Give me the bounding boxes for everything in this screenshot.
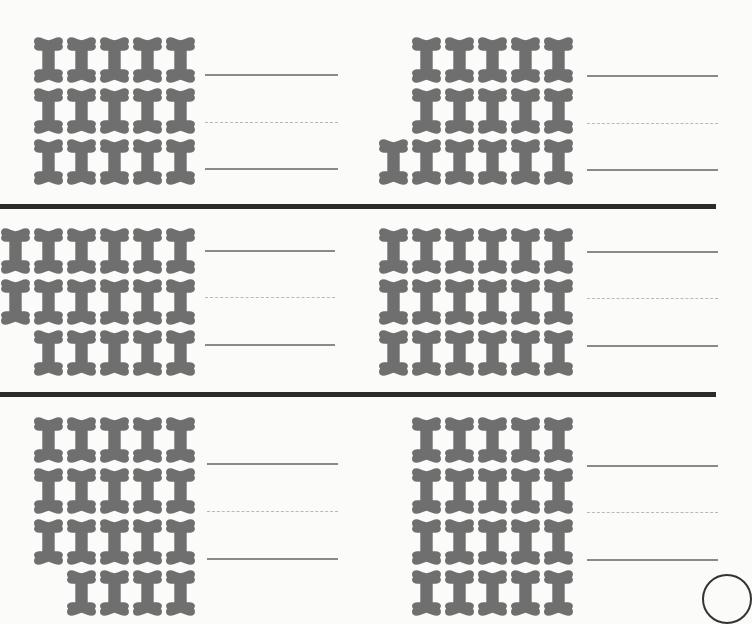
answer-writing-line[interactable] [587, 559, 718, 561]
dog-bone-icon [132, 226, 163, 276]
dog-bone-icon [477, 226, 508, 276]
dog-bone-icon [510, 35, 541, 85]
dog-bone-icon [444, 328, 475, 378]
dog-bone-icon [411, 35, 442, 85]
dog-bone-icon [510, 137, 541, 187]
dog-bone-icon [99, 277, 130, 327]
answer-midline[interactable] [205, 297, 335, 298]
dog-bone-icon [165, 86, 196, 136]
dog-bone-icon [33, 517, 64, 567]
dog-bone-icon [132, 568, 163, 618]
answer-writing-line[interactable] [587, 465, 718, 467]
dog-bone-icon [543, 328, 574, 378]
dog-bone-icon [444, 277, 475, 327]
dog-bone-icon [444, 86, 475, 136]
answer-writing-line[interactable] [587, 169, 718, 171]
dog-bone-icon [543, 137, 574, 187]
answer-writing-line[interactable] [587, 251, 718, 253]
dog-bone-icon [165, 35, 196, 85]
dog-bone-icon [411, 277, 442, 327]
dog-bone-icon [99, 35, 130, 85]
dog-bone-icon [477, 137, 508, 187]
dog-bone-icon [411, 517, 442, 567]
dog-bone-icon [66, 568, 97, 618]
dog-bone-icon [0, 226, 31, 276]
answer-writing-line[interactable] [587, 75, 718, 77]
dog-bone-icon [66, 86, 97, 136]
dog-bone-icon [66, 137, 97, 187]
dog-bone-icon [378, 137, 409, 187]
dog-bone-icon [378, 226, 409, 276]
dog-bone-icon [132, 277, 163, 327]
dog-bone-icon [66, 466, 97, 516]
dog-bone-icon [444, 137, 475, 187]
dog-bone-icon [510, 466, 541, 516]
dog-bone-icon [132, 328, 163, 378]
dog-bone-icon [165, 137, 196, 187]
dog-bone-icon [411, 226, 442, 276]
dog-bone-icon [477, 415, 508, 465]
dog-bone-icon [411, 328, 442, 378]
answer-midline[interactable] [587, 123, 718, 124]
dog-bone-icon [477, 328, 508, 378]
dog-bone-icon [477, 466, 508, 516]
dog-bone-icon [132, 35, 163, 85]
dog-bone-icon [477, 517, 508, 567]
dog-bone-icon [411, 466, 442, 516]
dog-bone-icon [99, 466, 130, 516]
section-divider-1 [0, 204, 716, 209]
dog-bone-icon [132, 415, 163, 465]
dog-bone-icon [66, 415, 97, 465]
dog-bone-icon [165, 517, 196, 567]
dog-bone-icon [510, 277, 541, 327]
answer-midline[interactable] [205, 122, 338, 123]
dog-bone-icon [165, 415, 196, 465]
dog-bone-icon [543, 35, 574, 85]
dog-bone-icon [33, 328, 64, 378]
dog-bone-icon [477, 86, 508, 136]
answer-writing-line[interactable] [207, 558, 338, 560]
dog-bone-icon [66, 226, 97, 276]
dog-bone-icon [66, 517, 97, 567]
dog-bone-icon [165, 226, 196, 276]
answer-writing-line[interactable] [587, 345, 718, 347]
dog-bone-icon [510, 86, 541, 136]
dog-bone-icon [510, 415, 541, 465]
dog-bone-icon [132, 517, 163, 567]
dog-bone-icon [165, 568, 196, 618]
dog-bone-icon [99, 568, 130, 618]
dog-bone-icon [33, 466, 64, 516]
answer-midline[interactable] [587, 298, 718, 299]
dog-bone-icon [543, 277, 574, 327]
dog-bone-icon [444, 415, 475, 465]
dog-bone-icon [444, 466, 475, 516]
dog-bone-icon [33, 35, 64, 85]
dog-bone-icon [132, 137, 163, 187]
answer-writing-line[interactable] [205, 250, 335, 252]
dog-bone-icon [99, 86, 130, 136]
dog-bone-icon [165, 277, 196, 327]
dog-bone-icon [543, 466, 574, 516]
dog-bone-icon [99, 415, 130, 465]
answer-writing-line[interactable] [205, 74, 338, 76]
answer-midline[interactable] [207, 511, 338, 512]
dog-bone-icon [444, 568, 475, 618]
dog-bone-icon [66, 328, 97, 378]
dog-bone-icon [444, 517, 475, 567]
dog-bone-icon [165, 466, 196, 516]
dog-bone-icon [510, 568, 541, 618]
dog-bone-icon [543, 568, 574, 618]
dog-bone-icon [477, 568, 508, 618]
answer-writing-line[interactable] [207, 463, 338, 465]
dog-bone-icon [543, 517, 574, 567]
answer-midline[interactable] [587, 512, 718, 513]
dog-bone-icon [33, 415, 64, 465]
dog-bone-icon [444, 226, 475, 276]
answer-writing-line[interactable] [205, 344, 335, 346]
dog-bone-icon [0, 277, 31, 327]
dog-bone-icon [99, 328, 130, 378]
dog-bone-icon [510, 226, 541, 276]
dog-bone-icon [411, 86, 442, 136]
dog-bone-icon [33, 277, 64, 327]
answer-writing-line[interactable] [205, 168, 338, 170]
